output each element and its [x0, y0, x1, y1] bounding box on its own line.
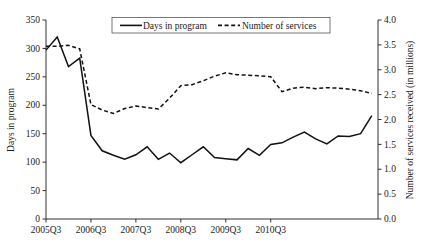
x-tick-label: 2007Q3 [121, 225, 152, 235]
x-tick-label: 2010Q3 [255, 225, 286, 235]
left-tick-label: 150 [26, 129, 41, 139]
left-tick-label: 100 [26, 157, 41, 167]
chart-container: 350300250200150100500 4.03.53.02.52.01.5… [0, 0, 425, 247]
x-tick-label: 2009Q3 [210, 225, 241, 235]
left-axis-ticks: 350300250200150100500 [26, 15, 46, 224]
x-tick-label: 2005Q3 [31, 225, 62, 235]
right-tick-label: 4.0 [384, 15, 396, 25]
right-tick-label: 0.0 [384, 214, 396, 224]
line-chart: 350300250200150100500 4.03.53.02.52.01.5… [0, 0, 425, 247]
plot-frame [46, 20, 378, 219]
x-tick-label: 2006Q3 [76, 225, 107, 235]
right-tick-label: 0.5 [384, 189, 396, 199]
left-tick-label: 300 [26, 44, 41, 54]
left-tick-label: 200 [26, 100, 41, 110]
left-tick-label: 250 [26, 72, 41, 82]
series-days-in-program [46, 37, 372, 163]
x-tick-label: 2008Q3 [166, 225, 197, 235]
left-tick-label: 350 [26, 15, 41, 25]
legend-label-number-of-services: Number of services [242, 21, 317, 31]
right-tick-label: 1.0 [384, 164, 396, 174]
left-axis-title: Days in program [6, 87, 16, 151]
right-tick-label: 2.0 [384, 115, 396, 125]
x-axis-ticks: 2005Q32006Q32007Q32008Q32009Q32010Q3 [31, 219, 287, 235]
right-tick-label: 2.5 [384, 90, 396, 100]
right-tick-label: 3.5 [384, 40, 396, 50]
left-tick-label: 0 [35, 214, 40, 224]
legend: Days in program Number of services [112, 18, 330, 34]
series-number-of-services [46, 45, 372, 113]
legend-label-days-in-program: Days in program [143, 21, 207, 31]
left-tick-label: 50 [31, 186, 41, 196]
right-tick-label: 3.0 [384, 65, 396, 75]
right-tick-label: 1.5 [384, 140, 396, 150]
right-axis-ticks: 4.03.53.02.52.01.51.00.50.0 [378, 15, 396, 224]
right-axis-title: Number of services received (in millions… [405, 41, 416, 200]
